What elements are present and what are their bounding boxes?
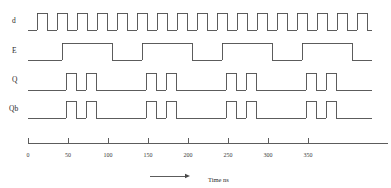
signal-label-d: d bbox=[12, 17, 16, 25]
waveform-d bbox=[28, 13, 372, 30]
tick-label: 0 bbox=[27, 152, 30, 158]
tick-label: 300 bbox=[264, 152, 273, 158]
waveform-Qb bbox=[28, 101, 372, 118]
signal-traces bbox=[28, 13, 372, 118]
tick-label: 250 bbox=[224, 152, 233, 158]
timing-diagram-figure: dEQQb 050100150200250300350 Time ns bbox=[0, 0, 391, 188]
arrow-head-icon bbox=[185, 174, 190, 178]
signal-label-Q: Q bbox=[12, 76, 18, 84]
time-axis bbox=[28, 138, 388, 143]
tick-label: 100 bbox=[104, 152, 113, 158]
waveform-E bbox=[28, 43, 372, 60]
time-arrow bbox=[150, 174, 190, 178]
tick-label: 200 bbox=[184, 152, 193, 158]
signal-label-Qb: Qb bbox=[9, 105, 19, 113]
waveform-canvas bbox=[0, 0, 391, 188]
tick-label: 50 bbox=[65, 152, 71, 158]
tick-label: 150 bbox=[144, 152, 153, 158]
signal-label-E: E bbox=[12, 47, 17, 55]
tick-label: 350 bbox=[304, 152, 313, 158]
axis-title: Time ns bbox=[208, 177, 229, 184]
waveform-Q bbox=[28, 73, 372, 90]
